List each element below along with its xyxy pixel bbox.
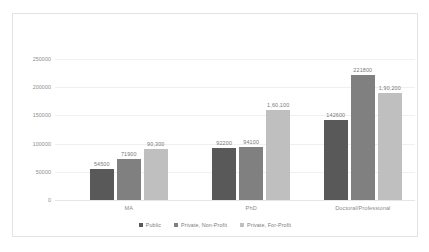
bar-value-label: 92200 [216, 140, 232, 146]
gridline [55, 200, 415, 201]
bar-value-label: 71900 [121, 151, 137, 157]
bar: 142600 [324, 120, 348, 200]
bar: 221800 [351, 75, 375, 200]
chart-legend: PublicPrivate, Non-ProfitPrivate, For-Pr… [13, 222, 417, 228]
chart-frame: 050000100000150000200000250000 545007190… [12, 13, 418, 237]
y-axis-tick-label: 0 [48, 197, 51, 203]
legend-item[interactable]: Private, For-Profit [240, 222, 291, 228]
legend-swatch-icon [139, 223, 143, 227]
bar-value-label: 90,300 [147, 141, 164, 147]
legend-swatch-icon [174, 223, 178, 227]
bar-value-label: 54500 [94, 161, 110, 167]
bar: 1,90,200 [378, 93, 402, 200]
bar: 54500 [90, 169, 114, 200]
bar: 90,300 [144, 149, 168, 200]
x-axis-category-label: Doctoral/Professional [335, 205, 390, 211]
legend-label: Private, For-Profit [247, 222, 291, 228]
y-axis-tick-label: 150000 [33, 112, 51, 118]
bar-value-label: 142600 [326, 112, 345, 118]
legend-item[interactable]: Private, Non-Profit [174, 222, 227, 228]
legend-item[interactable]: Public [139, 222, 161, 228]
plot-area: 050000100000150000200000250000 545007190… [55, 59, 415, 200]
bar: 71900 [117, 159, 141, 200]
y-axis-tick-label: 50000 [36, 169, 51, 175]
x-axis-category-label: PhD [246, 205, 257, 211]
bar-series-layer: 545007190090,30092200941001,60,100142600… [55, 59, 415, 200]
y-axis-tick-label: 200000 [33, 84, 51, 90]
y-axis-tick-label: 250000 [33, 56, 51, 62]
bar: 1,60,100 [266, 110, 290, 200]
legend-label: Public [146, 222, 161, 228]
legend-swatch-icon [240, 223, 244, 227]
bar-value-label: 1,60,100 [267, 102, 289, 108]
legend-label: Private, Non-Profit [181, 222, 227, 228]
bar-value-label: 94100 [243, 139, 259, 145]
y-axis-tick-label: 100000 [33, 141, 51, 147]
bar: 92200 [212, 148, 236, 200]
bar-value-label: 221800 [353, 67, 372, 73]
x-axis-category-label: MA [125, 205, 134, 211]
bar-value-label: 1,90,200 [379, 85, 401, 91]
bar: 94100 [239, 147, 263, 200]
chart-screenshot: 050000100000150000200000250000 545007190… [0, 0, 429, 252]
